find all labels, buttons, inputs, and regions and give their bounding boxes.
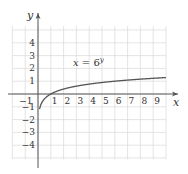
y-axis-label: y [26,9,34,22]
equation-eq: = 6 [79,57,100,68]
svg-text:4: 4 [90,96,96,106]
svg-text:7: 7 [129,96,135,106]
svg-text:6: 6 [116,96,122,106]
svg-text:−4: −4 [22,140,36,150]
svg-text:−2: −2 [22,115,35,125]
svg-text:−3: −3 [22,127,36,137]
svg-text:1: 1 [52,96,58,106]
svg-text:4: 4 [29,38,35,48]
svg-text:9: 9 [154,96,160,106]
equation-label: x = 6y [73,56,105,68]
log-chart: −11234567894321−1−2−3−4 y x x = 6y [0,0,188,174]
svg-text:1: 1 [29,76,35,86]
svg-text:2: 2 [29,63,35,73]
svg-text:8: 8 [141,96,147,106]
svg-text:−1: −1 [22,102,35,112]
svg-text:5: 5 [103,96,109,106]
svg-text:3: 3 [29,51,35,61]
svg-text:3: 3 [77,96,83,106]
x-axis-label: x [173,96,180,109]
equation-exponent: y [99,56,105,64]
svg-text:2: 2 [65,96,71,106]
grid [12,26,166,159]
